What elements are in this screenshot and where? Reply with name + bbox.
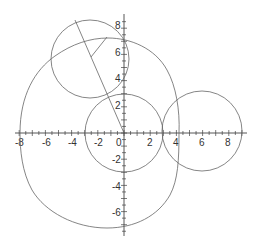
x-tick-label: 8 (225, 137, 231, 148)
circle-right (162, 91, 242, 171)
y-tick-labels: 2 4 6 8 -2 -4 -6 (112, 20, 121, 218)
short-segment (91, 37, 107, 57)
x-tick-label: -8 (15, 137, 24, 148)
x-tick-label: 2 (147, 137, 153, 148)
x-tick-label: -4 (68, 137, 77, 148)
diagram-svg: -8 -6 -4 -2 0 2 4 6 8 2 4 6 8 -2 -4 -6 (0, 0, 258, 247)
shapes (20, 20, 242, 228)
y-tick-label: 2 (115, 100, 121, 111)
axis-ticks (19, 22, 242, 232)
x-tick-label: 4 (173, 137, 179, 148)
x-tick-label: 6 (199, 137, 205, 148)
y-tick-label: -6 (112, 207, 121, 218)
y-tick-label: -2 (112, 154, 121, 165)
x-tick-label: -2 (94, 137, 103, 148)
y-tick-label: 6 (115, 47, 121, 58)
circle-top-left (51, 20, 129, 98)
x-tick-label: 0 (116, 137, 122, 148)
axes (15, 14, 247, 236)
diagram-canvas: -8 -6 -4 -2 0 2 4 6 8 2 4 6 8 -2 -4 -6 (0, 0, 258, 247)
y-tick-label: 4 (115, 73, 121, 84)
y-tick-label: -4 (112, 181, 121, 192)
x-tick-label: -6 (42, 137, 51, 148)
